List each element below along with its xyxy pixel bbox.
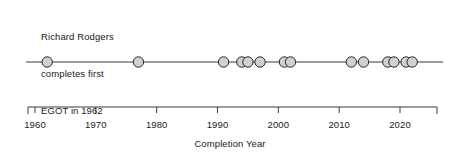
timeline-marker (346, 57, 356, 67)
axis-tick-label: 1960 (24, 119, 46, 130)
axis-tick-label: 1970 (85, 119, 107, 130)
timeline-marker (133, 57, 143, 67)
timeline-marker (243, 57, 253, 67)
axis-tick-label: 2020 (389, 119, 411, 130)
timeline-plot-area (0, 0, 460, 160)
axis-tick-group (35, 107, 400, 113)
timeline-marker (255, 57, 265, 67)
timeline-marker (407, 57, 417, 67)
timeline-marker (218, 57, 228, 67)
timeline-marker (42, 57, 52, 67)
timeline-marker (285, 57, 295, 67)
timeline-marker (389, 57, 399, 67)
axis-title: Completion Year (0, 138, 460, 149)
axis-tick-label: 1980 (146, 119, 168, 130)
year-axis-line (28, 107, 437, 114)
axis-tick-label: 2010 (328, 119, 350, 130)
timeline-marker (358, 57, 368, 67)
egot-timeline-chart: Richard Rodgers completes first EGOT in … (0, 0, 460, 160)
axis-tick-label: 1990 (207, 119, 229, 130)
axis-tick-label: 2000 (268, 119, 290, 130)
